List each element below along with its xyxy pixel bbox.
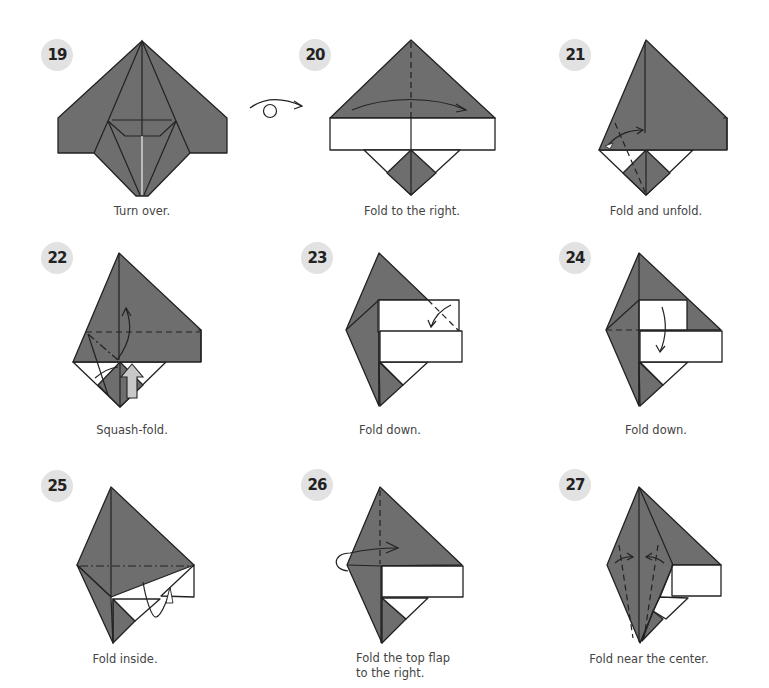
step-caption: Fold down. bbox=[350, 422, 430, 438]
step-20-figure bbox=[240, 0, 520, 230]
step-19-figure bbox=[0, 0, 260, 230]
step-21: 21 Fold and unfold. bbox=[520, 0, 769, 230]
step-24-figure bbox=[520, 230, 769, 450]
step-26: 26 Fold the top flap to the right. bbox=[260, 450, 520, 688]
step-caption: Fold inside. bbox=[85, 651, 165, 667]
step-21-figure bbox=[520, 0, 769, 230]
step-caption-line-1: Fold the top flap bbox=[356, 650, 450, 666]
step-caption: Fold to the right. bbox=[352, 203, 472, 219]
step-19: 19 Turn over. bbox=[0, 0, 260, 230]
step-caption: Squash-fold. bbox=[82, 422, 182, 438]
step-23-figure bbox=[260, 230, 520, 450]
step-caption: Turn over. bbox=[92, 203, 192, 219]
step-22: 22 Squash-fold. bbox=[0, 230, 260, 450]
step-25: 25 Fold inside. bbox=[0, 450, 260, 688]
step-20: 20 Fold to the right. bbox=[240, 0, 520, 230]
step-27: 27 Fold near the center. bbox=[520, 450, 769, 688]
step-caption: Fold near the center. bbox=[584, 651, 714, 667]
step-23: 23 Fold down. bbox=[260, 230, 520, 450]
step-24: 24 Fold down. bbox=[520, 230, 769, 450]
step-22-figure bbox=[0, 230, 260, 450]
step-caption: Fold down. bbox=[616, 422, 696, 438]
step-caption-line-2: to the right. bbox=[356, 665, 424, 681]
step-caption: Fold and unfold. bbox=[596, 203, 716, 219]
